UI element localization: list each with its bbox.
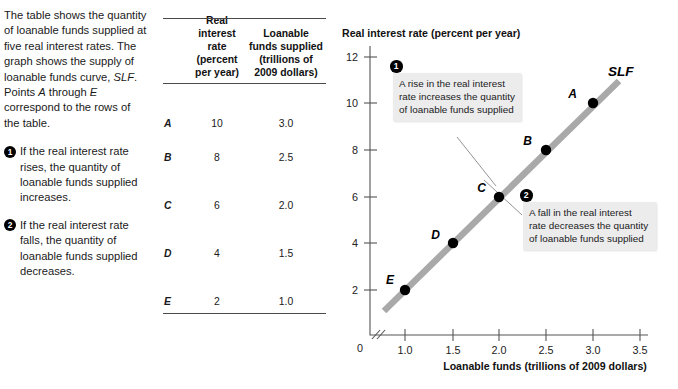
cell-funds: 3.0 <box>246 83 326 133</box>
note-item-1: 1 If the real interest rate rises, the q… <box>4 144 148 206</box>
callout-box-1: A rise in the real interest rate increas… <box>393 73 521 121</box>
y-tick-label: 6 <box>352 191 358 203</box>
row-label: B <box>163 133 188 181</box>
callout-text-1: A rise in the real interest rate increas… <box>393 73 521 121</box>
table-header-row: Real interest rate (percent per year) Lo… <box>163 14 326 83</box>
header-line: per year) <box>188 66 246 79</box>
slf-graph: 2 4 6 8 10 12 1.0 1.5 2.0 2.5 3.0 3.5 0 … <box>336 0 678 389</box>
data-point-label-d: D <box>431 228 440 242</box>
column-header-loanable-funds-supplied: Loanable funds supplied (trillions of 20… <box>246 14 326 83</box>
header-line: interest rate <box>188 27 246 53</box>
row-label: A <box>163 83 188 133</box>
row-label: E <box>163 277 188 325</box>
table-rule-bottom <box>163 313 326 314</box>
intro-paragraph: The table shows the quantity of loanable… <box>4 8 148 131</box>
data-point-c <box>494 192 504 202</box>
x-tick-label: 2.0 <box>491 344 506 356</box>
table-rule-middle <box>163 83 326 84</box>
note-badge-1: 1 <box>4 146 16 158</box>
y-tick-label: 12 <box>346 51 358 63</box>
graph-canvas: 2 4 6 8 10 12 1.0 1.5 2.0 2.5 3.0 3.5 0 … <box>336 0 678 389</box>
row-label: C <box>163 181 188 229</box>
y-tick-label: 10 <box>346 97 358 109</box>
cell-rate: 6 <box>188 181 246 229</box>
header-line: Loanable <box>246 27 326 40</box>
cell-rate: 4 <box>188 229 246 277</box>
cell-funds: 2.5 <box>246 133 326 181</box>
note-item-2: 2 If the real interest rate falls, the q… <box>4 218 148 280</box>
column-header-row-label <box>163 14 188 83</box>
note-text-2: If the real interest rate falls, the qua… <box>20 219 138 277</box>
data-point-e <box>400 285 410 295</box>
callout-badge-2: 2 <box>520 189 533 202</box>
loanable-funds-table: Real interest rate (percent per year) Lo… <box>163 14 326 325</box>
header-line: (percent <box>188 53 246 66</box>
callout-text-2: A fall in the real interest rate decreas… <box>523 202 656 250</box>
data-point-b <box>541 145 551 155</box>
data-point-d <box>448 238 458 248</box>
x-tick-label: 1.0 <box>397 344 412 356</box>
x-tick-label: 2.5 <box>538 344 553 356</box>
row-label: D <box>163 229 188 277</box>
column-header-real-interest-rate: Real interest rate (percent per year) <box>188 14 246 83</box>
callout-box-2: A fall in the real interest rate decreas… <box>523 202 656 250</box>
table-element: Real interest rate (percent per year) Lo… <box>163 14 326 325</box>
y-axis-title: Real interest rate (percent per year) <box>342 27 520 39</box>
note-badge-2: 2 <box>4 219 16 231</box>
x-tick-label: 3.0 <box>585 344 600 356</box>
header-line: 2009 dollars) <box>246 66 326 79</box>
cell-funds: 1.5 <box>246 229 326 277</box>
table-body: A 10 3.0 B 8 2.5 C 6 2.0 D 4 1.5 E 2 <box>163 83 326 325</box>
y-tick-label: 2 <box>352 284 358 296</box>
data-point-label-c: C <box>477 181 486 195</box>
data-point-a <box>588 98 598 108</box>
slf-curve-label: SLF <box>608 64 634 79</box>
data-point-label-a: A <box>567 87 577 101</box>
cell-funds: 2.0 <box>246 181 326 229</box>
cell-funds: 1.0 <box>246 277 326 325</box>
table-header: Real interest rate (percent per year) Lo… <box>163 14 326 83</box>
origin-label: 0 <box>357 342 363 354</box>
table-rule-top <box>163 18 326 19</box>
header-line: funds supplied <box>246 40 326 53</box>
x-axis-title: Loanable funds (trillions of 2009 dollar… <box>443 360 647 372</box>
note-text-1: If the real interest rate rises, the qua… <box>20 145 138 203</box>
x-tick-label: 3.5 <box>632 344 647 356</box>
cell-rate: 8 <box>188 133 246 181</box>
y-tick-label: 4 <box>352 237 358 249</box>
cell-rate: 10 <box>188 83 246 133</box>
callout-1-leader-line <box>457 137 496 186</box>
table-row: A 10 3.0 <box>163 83 326 133</box>
callout-badge-1: 1 <box>390 60 403 73</box>
cell-rate: 2 <box>188 277 246 325</box>
header-line: Real <box>188 14 246 27</box>
x-tick-label: 1.5 <box>445 344 460 356</box>
header-line: (trillions of <box>246 53 326 66</box>
explanatory-text-column: The table shows the quantity of loanable… <box>4 8 148 292</box>
table-row: B 8 2.5 <box>163 133 326 181</box>
data-point-label-b: B <box>523 134 532 148</box>
data-point-label-e: E <box>386 273 395 287</box>
table-row: C 6 2.0 <box>163 181 326 229</box>
table-row: D 4 1.5 <box>163 229 326 277</box>
table-row: E 2 1.0 <box>163 277 326 325</box>
y-tick-label: 8 <box>352 144 358 156</box>
